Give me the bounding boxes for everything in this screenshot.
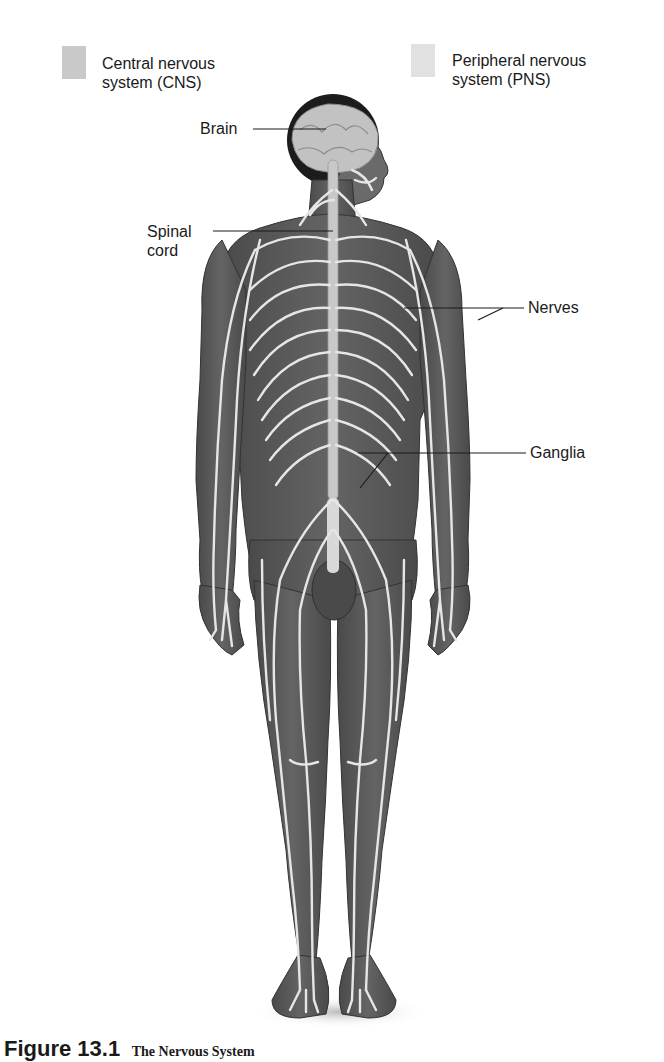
nerves-label: Nerves	[528, 298, 579, 317]
figure-caption: Figure 13.1 The Nervous System	[4, 1036, 255, 1062]
spinal-cord-label: Spinal cord	[147, 222, 191, 260]
spinal-cord-label-line1: Spinal	[147, 222, 191, 241]
brain-label: Brain	[200, 119, 237, 138]
figure-number: Figure 13.1	[4, 1036, 120, 1061]
figure-title: The Nervous System	[132, 1044, 255, 1059]
nerves-leader-line-branch	[478, 308, 503, 320]
ganglia-label: Ganglia	[530, 443, 585, 462]
spinal-cord-label-line2: cord	[147, 241, 191, 260]
